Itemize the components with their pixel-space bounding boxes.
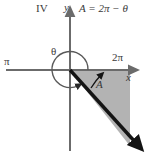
y-axis-label: y: [64, 2, 69, 13]
formula-label: A = 2π − θ: [79, 3, 128, 14]
diagram-canvas: [0, 0, 146, 154]
quadrant-label: IV: [36, 3, 48, 14]
two-pi-tick-label: 2π: [112, 52, 123, 63]
x-axis-label: x: [126, 72, 131, 83]
theta-label: θ: [51, 46, 56, 57]
quadrant-four-angle-diagram: IV A = 2π − θ y x π 2π θ A: [0, 0, 146, 154]
angle-a-label: A: [96, 79, 103, 90]
pi-tick-label: π: [4, 56, 10, 67]
